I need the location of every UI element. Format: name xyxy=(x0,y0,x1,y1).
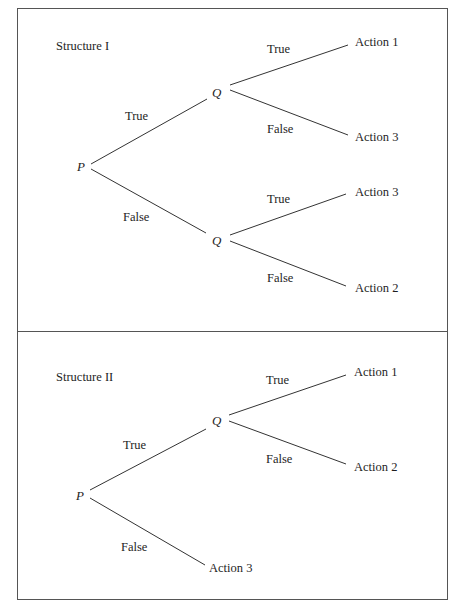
node-s1-p: P xyxy=(77,160,85,173)
node-s1-q-top: Q xyxy=(212,86,221,99)
leaf-s1-action-3-bottom: Action 3 xyxy=(355,186,398,199)
edge-s2-p-a3 xyxy=(90,498,205,565)
label-s1-p-true: True xyxy=(125,110,148,123)
label-s2-p-false: False xyxy=(121,541,147,554)
label-s1-p-false: False xyxy=(123,211,149,224)
structure-2-title: Structure II xyxy=(56,371,113,384)
label-s1-qtop-true: True xyxy=(267,43,290,56)
leaf-s1-action-3-top: Action 3 xyxy=(355,131,398,144)
leaf-s2-action-2: Action 2 xyxy=(354,461,397,474)
leaf-s1-action-2: Action 2 xyxy=(355,282,398,295)
leaf-s2-action-3: Action 3 xyxy=(209,562,252,575)
label-s1-qbot-false: False xyxy=(267,272,293,285)
edge-s2-p-q xyxy=(90,429,206,490)
structure-1-title: Structure I xyxy=(56,40,109,53)
node-s2-q: Q xyxy=(212,414,221,427)
label-s2-q-false: False xyxy=(266,453,292,466)
label-s1-qtop-false: False xyxy=(267,123,293,136)
label-s2-p-true: True xyxy=(123,439,146,452)
leaf-s2-action-1: Action 1 xyxy=(354,366,397,379)
label-s2-q-true: True xyxy=(266,374,289,387)
node-s1-q-bottom: Q xyxy=(212,234,221,247)
label-s1-qbot-true: True xyxy=(267,193,290,206)
leaf-s1-action-1: Action 1 xyxy=(355,36,398,49)
edge-s1-p-qtop xyxy=(91,99,207,164)
node-s2-p: P xyxy=(76,489,84,502)
tree-edges xyxy=(0,0,460,612)
